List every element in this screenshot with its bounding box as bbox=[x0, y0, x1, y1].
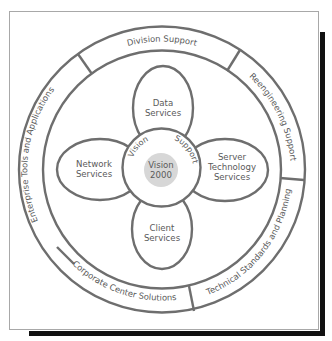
petal-label-data-line2: Services bbox=[145, 108, 182, 118]
core-label-line1: Vision bbox=[148, 160, 174, 170]
core-label-line2: 2000 bbox=[150, 170, 172, 180]
petal-label-client-line1: Client bbox=[150, 223, 176, 233]
petal-label-network-line2: Services bbox=[76, 169, 113, 179]
petal-label-network-line1: Network bbox=[76, 159, 112, 169]
petal-label-server-line1: Server bbox=[218, 152, 247, 162]
petal-label-server-line3: Services bbox=[214, 172, 251, 182]
petal-label-data-line1: Data bbox=[153, 98, 174, 108]
petal-label-server-line2: Technology bbox=[207, 162, 256, 172]
petal-label-client-line2: Services bbox=[144, 233, 181, 243]
frame-shadow-right bbox=[320, 32, 325, 335]
frame-shadow-bottom bbox=[29, 331, 325, 336]
vision-2000-diagram: Division Support Reengineering Support T… bbox=[0, 0, 332, 341]
